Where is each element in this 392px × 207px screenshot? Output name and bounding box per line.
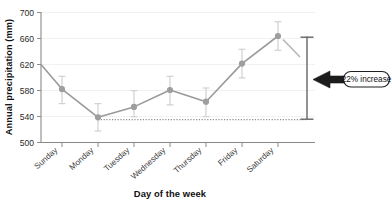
y-tick-label: 580 — [20, 86, 35, 96]
chart-canvas: 700 660 620 580 540 500 — [0, 0, 392, 207]
data-point — [59, 86, 65, 92]
y-tick-label: 540 — [20, 112, 35, 122]
x-tick-labels: Sunday Monday Tuesday Wednesday Thursday… — [33, 145, 276, 181]
x-tick-label: Wednesday — [129, 145, 168, 181]
y-tick-label: 620 — [20, 60, 35, 70]
x-tick-label: Tuesday — [102, 145, 132, 173]
data-point — [131, 104, 137, 110]
error-bars — [59, 22, 282, 131]
data-point — [239, 61, 245, 67]
y-axis-title: Annual precipitation (mm) — [4, 19, 14, 135]
line-tail-segment — [283, 40, 300, 58]
error-bar — [131, 91, 138, 117]
y-tick-label: 500 — [20, 138, 35, 148]
x-tick-label: Friday — [216, 145, 240, 168]
y-tick-marks — [37, 13, 41, 143]
x-tick-label: Monday — [68, 145, 96, 172]
annotation-label: 22% increase — [342, 75, 392, 84]
y-tick-labels: 700 660 620 580 540 500 — [20, 8, 35, 148]
data-point — [203, 99, 209, 105]
x-tick-marks — [62, 143, 278, 148]
data-point — [275, 33, 281, 39]
data-point — [95, 114, 101, 120]
gridlines — [41, 13, 315, 117]
x-tick-label: Saturday — [245, 145, 276, 174]
precipitation-line-chart: 700 660 620 580 540 500 — [0, 0, 392, 207]
x-axis-title: Day of the week — [134, 188, 207, 199]
x-tick-label: Thursday — [172, 145, 204, 175]
increase-measure-arrow — [301, 37, 314, 120]
y-tick-label: 700 — [20, 8, 35, 18]
y-tick-label: 660 — [20, 34, 35, 44]
data-point — [167, 87, 173, 93]
x-tick-label: Sunday — [33, 145, 60, 171]
